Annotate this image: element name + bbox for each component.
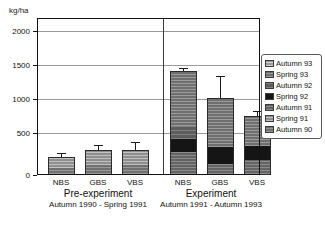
bar-segment-spring-92 <box>245 146 270 159</box>
legend-label: Autumn 90 <box>276 125 312 134</box>
bar-exp-nbs[interactable] <box>170 71 197 176</box>
bar-segment-spring-92 <box>208 147 233 164</box>
legend-swatch-icon <box>265 71 274 78</box>
bar-segment-autumn-90 <box>123 165 148 174</box>
legend-label: Autumn 91 <box>276 103 312 112</box>
error-bar-pre-vbs <box>135 143 136 151</box>
bar-segment-autumn-91 <box>171 152 196 174</box>
legend-item-spring-93[interactable]: Spring 93 <box>264 69 319 80</box>
bar-pre-nbs[interactable] <box>48 157 75 175</box>
legend-swatch-icon <box>265 126 274 133</box>
bar-segment-autumn-90 <box>49 168 74 174</box>
legend-item-autumn-92[interactable]: Autumn 92 <box>264 80 319 91</box>
ytick-label-500: 500 <box>0 129 30 138</box>
bar-pre-vbs[interactable] <box>122 150 149 175</box>
ytick-label-1000: 1000 <box>0 95 30 104</box>
xtick-label-pre-gbs: GBS <box>78 178 118 187</box>
bar-segment-spring-93 <box>171 72 196 126</box>
bar-segment-spring-93 <box>208 99 233 148</box>
bar-segment-autumn-91 <box>208 164 233 174</box>
legend-item-spring-92[interactable]: Spring 92 <box>264 91 319 102</box>
bar-segment-autumn-91 <box>245 160 270 175</box>
legend-item-spring-91[interactable]: Spring 91 <box>264 113 319 124</box>
bar-segment-autumn-92 <box>171 126 196 139</box>
bar-segment-spring-91 <box>86 151 111 165</box>
legend: Autumn 93 Spring 93 Autumn 92 Spring 92 … <box>261 54 322 139</box>
xtick-label-exp-gbs: GBS <box>200 178 240 187</box>
bar-segment-spring-91 <box>123 151 148 165</box>
legend-label: Autumn 92 <box>276 81 312 90</box>
y-axis-unit-label: kg/ha <box>9 6 29 15</box>
legend-item-autumn-93[interactable]: Autumn 93 <box>264 58 319 69</box>
ytick-label-2000: 2000 <box>0 27 30 36</box>
error-cap-pre-nbs <box>57 153 66 154</box>
bar-exp-gbs[interactable] <box>207 98 234 175</box>
error-cap-exp-gbs <box>216 76 225 77</box>
legend-item-autumn-90[interactable]: Autumn 90 <box>264 124 319 135</box>
error-cap-exp-nbs <box>179 68 188 69</box>
error-bar-exp-vbs <box>257 112 258 115</box>
ytick-label-0: 0 <box>0 171 30 180</box>
error-cap-pre-gbs <box>94 145 103 146</box>
bar-segment-spring-91 <box>49 158 74 169</box>
legend-label: Autumn 93 <box>276 59 312 68</box>
legend-swatch-icon <box>265 82 274 89</box>
bar-segment-spring-92 <box>171 139 196 152</box>
legend-swatch-icon <box>265 93 274 100</box>
xtick-label-exp-vbs: VBS <box>237 178 277 187</box>
legend-swatch-icon <box>265 104 274 111</box>
plot-area <box>37 18 260 175</box>
group-divider-line <box>163 18 164 175</box>
error-bar-pre-nbs <box>61 154 62 157</box>
ytick-label-1500: 1500 <box>0 61 30 70</box>
legend-swatch-icon <box>265 60 274 67</box>
legend-label: Spring 91 <box>276 114 308 123</box>
error-bar-exp-gbs <box>220 77 221 98</box>
chart-figure: kg/ha 2000 1500 1000 500 0 <box>0 0 325 226</box>
bar-pre-gbs[interactable] <box>85 150 112 175</box>
group-title-experiment: Experiment <box>136 188 286 199</box>
error-cap-pre-vbs <box>131 142 140 143</box>
error-bar-exp-nbs <box>183 69 184 71</box>
xtick-label-pre-nbs: NBS <box>41 178 81 187</box>
legend-label: Spring 92 <box>276 92 308 101</box>
bar-segment-autumn-90 <box>86 165 111 174</box>
legend-label: Spring 93 <box>276 70 308 79</box>
group-subtitle-experiment: Autumn 1991 - Autumn 1993 <box>126 200 296 209</box>
xtick-label-pre-vbs: VBS <box>115 178 155 187</box>
xtick-label-exp-nbs: NBS <box>163 178 203 187</box>
legend-swatch-icon <box>265 115 274 122</box>
error-bar-pre-gbs <box>98 146 99 149</box>
legend-item-autumn-91[interactable]: Autumn 91 <box>264 102 319 113</box>
ytick-mark-0 <box>33 175 37 176</box>
